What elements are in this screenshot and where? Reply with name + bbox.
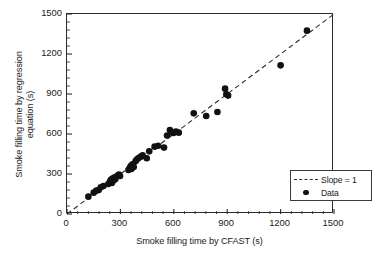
x-tick-label: 1200 xyxy=(258,217,302,228)
x-tick-label: 900 xyxy=(204,217,248,228)
x-tick-label: 0 xyxy=(44,217,88,228)
filled-circle-icon xyxy=(291,190,321,195)
x-tick-label: 300 xyxy=(97,217,141,228)
y-tick-label: 1500 xyxy=(22,7,62,18)
x-tick-label: 600 xyxy=(151,217,195,228)
legend-item-data: Data xyxy=(291,186,371,199)
dashed-line-icon xyxy=(291,179,321,180)
legend-label-slope: Slope = 1 xyxy=(321,175,357,185)
y-axis-title: Smoke filling time by regression equatio… xyxy=(8,7,42,222)
x-axis-title: Smoke filling time by CFAST (s) xyxy=(66,236,333,246)
y-tick-label: 600 xyxy=(22,127,62,138)
x-tick-label: 1500 xyxy=(311,217,355,228)
legend-label-data: Data xyxy=(321,188,339,198)
y-tick-label: 300 xyxy=(22,167,62,178)
data-points xyxy=(85,27,310,200)
y-tick-label: 900 xyxy=(22,87,62,98)
legend-item-slope: Slope = 1 xyxy=(291,173,371,186)
y-tick-label: 1200 xyxy=(22,47,62,58)
chart-legend: Slope = 1 Data xyxy=(290,170,372,201)
plot-area: Slope = 1 Data xyxy=(66,13,333,213)
